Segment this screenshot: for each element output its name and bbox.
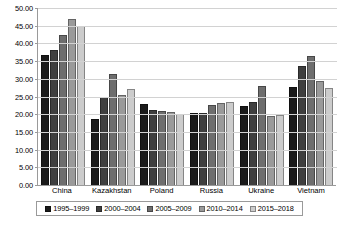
y-axis-tick-label: 15.00 [15,127,33,136]
y-axis-tick-label: 25.00 [15,92,33,101]
bar [127,89,135,185]
x-axis: ChinaKazakhstanPolandRussiaUkraineVietna… [37,186,336,198]
y-axis-tick-label: 40.00 [15,39,33,48]
y-axis-tickmark [35,132,38,133]
legend-label: 2005–2009 [155,204,191,213]
bar [41,55,49,185]
y-axis-tick-label: 20.00 [15,110,33,119]
gridline [38,26,337,27]
x-axis-category-label: Russia [186,186,236,198]
y-axis-tickmark [35,8,38,9]
legend-swatch-icon [45,206,51,212]
x-axis-category-label: Ukraine [236,186,286,198]
y-axis-tick-label: 50.00 [15,4,33,13]
y-axis-tickmark [35,61,38,62]
x-axis-category-label: Poland [137,186,187,198]
bar [100,97,108,185]
gridline [38,150,337,151]
bar [325,88,333,185]
y-axis-tickmark [35,26,38,27]
y-axis-tickmark [35,150,38,151]
legend-swatch-icon [250,206,256,212]
x-axis-category-label: Vietnam [286,186,336,198]
chart-legend: 1995–19992000–20042005–20092010–20142015… [36,201,303,216]
bar [240,106,248,185]
gridline [38,79,337,80]
y-axis-tickmark [35,114,38,115]
plot-area [37,8,336,186]
bar [258,86,266,185]
gridline [38,167,337,168]
bar [149,110,157,185]
y-axis: 0.005.0010.0015.0020.0025.0030.0035.0040… [0,0,36,196]
bar [289,87,297,185]
legend-label: 1995–1999 [53,204,89,213]
bar [59,35,67,185]
plot-wrapper: 0.005.0010.0015.0020.0025.0030.0035.0040… [0,0,339,196]
y-axis-tick-label: 0.00 [19,181,33,190]
x-axis-category-label: China [37,186,87,198]
bar [208,105,216,185]
y-axis-tick-label: 30.00 [15,74,33,83]
legend-item: 1995–1999 [45,204,89,213]
legend-item: 2005–2009 [147,204,191,213]
gridline [38,61,337,62]
legend-item: 2010–2014 [199,204,243,213]
y-axis-tick-label: 5.00 [19,163,33,172]
y-axis-tick-label: 35.00 [15,57,33,66]
bar [307,56,315,185]
y-axis-tickmark [35,167,38,168]
gridline [38,43,337,44]
legend-label: 2010–2014 [207,204,243,213]
legend-item: 2000–2004 [96,204,140,213]
bar [91,119,99,185]
bar [118,95,126,185]
x-axis-category-label: Kazakhstan [87,186,137,198]
legend-swatch-icon [96,206,102,212]
gridline [38,8,337,9]
y-axis-tickmark [35,79,38,80]
gridline [38,132,337,133]
bar [158,111,166,185]
bar [109,74,117,185]
legend-label: 2015–2018 [258,204,294,213]
y-axis-tickmark [35,43,38,44]
legend-item: 2015–2018 [250,204,294,213]
bar [77,26,85,185]
bar [50,50,58,185]
gridline [38,97,337,98]
gridline [38,114,337,115]
legend-swatch-icon [147,206,153,212]
y-axis-tick-label: 10.00 [15,145,33,154]
bar [217,103,225,185]
y-axis-tickmark [35,97,38,98]
bar-chart: 0.005.0010.0015.0020.0025.0030.0035.0040… [0,0,339,230]
legend-swatch-icon [199,206,205,212]
bar [140,104,148,185]
legend-label: 2000–2004 [104,204,140,213]
y-axis-tick-label: 45.00 [15,21,33,30]
